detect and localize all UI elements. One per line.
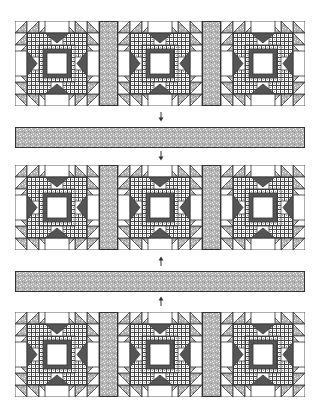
quilt-block <box>221 21 305 106</box>
vertical-sashing <box>202 312 221 397</box>
quilt-block <box>221 312 305 397</box>
quilt-block <box>15 21 99 106</box>
arrow-up-icon <box>157 256 165 266</box>
arrow-up-icon <box>157 296 165 306</box>
quilt-block <box>118 312 202 397</box>
vertical-sashing <box>99 312 118 397</box>
quilt-block <box>221 165 305 250</box>
quilt-block <box>118 21 202 106</box>
vertical-sashing <box>202 165 221 250</box>
quilt-block <box>15 165 99 250</box>
vertical-sashing <box>99 21 118 106</box>
vertical-sashing <box>99 165 118 250</box>
arrow-down-icon <box>157 112 165 122</box>
block-row-3 <box>15 312 305 397</box>
arrow-down-icon <box>157 151 165 161</box>
block-row-2 <box>15 165 305 250</box>
block-row-1 <box>15 21 305 106</box>
quilt-block <box>118 165 202 250</box>
horizontal-sashing-strip <box>15 271 305 292</box>
quilt-block <box>15 312 99 397</box>
horizontal-sashing-strip <box>15 127 305 148</box>
vertical-sashing <box>202 21 221 106</box>
